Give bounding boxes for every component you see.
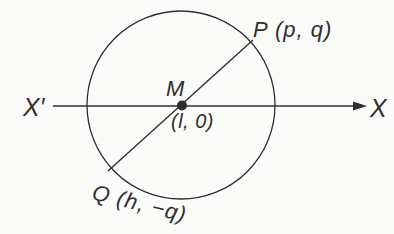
center-coords-label: (l, 0)	[171, 110, 214, 132]
axis-label-left: X′	[22, 93, 46, 121]
center-point-dot	[177, 101, 187, 111]
point-q-label: Q (h, −q)	[90, 180, 190, 228]
center-label: M	[166, 76, 185, 101]
geometry-figure: M (l, 0) P (p, q) Q (h, −q) X′ X	[0, 0, 394, 234]
axis-label-right: X	[369, 94, 388, 122]
axis-arrowhead-icon	[353, 102, 367, 111]
point-p-label: P (p, q)	[253, 17, 332, 42]
circle-diameter-diagram: M (l, 0) P (p, q) Q (h, −q) X′ X	[0, 0, 394, 234]
